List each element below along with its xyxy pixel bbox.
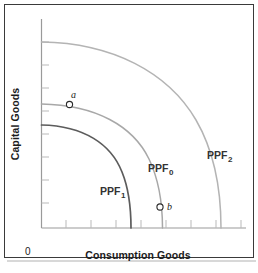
y-axis-ticks [42,42,50,203]
point-b-marker [157,204,163,210]
ppf2-label-subscript: 2 [228,155,232,164]
ppf1-label-base: PPF [100,185,120,197]
ppf2-label-base: PPF [207,149,227,161]
y-axis-title: Capital Goods [9,79,21,169]
point-b-label: b [167,201,172,212]
ppf0-label-base: PPF [148,162,168,174]
x-axis-title: Consumption Goods [63,249,213,261]
ppf0-label: PPF0 [148,163,173,174]
x-axis-ticks [66,220,241,228]
point-a-label: a [71,89,76,100]
ppf1-label: PPF1 [100,186,125,197]
point-a-marker [66,101,72,107]
origin-label: 0 [25,246,31,257]
ppf2-label: PPF2 [207,150,232,161]
ppf-figure: PPF0 PPF1 PPF2 a b Capital Goods Consump… [0,0,258,273]
ppf-chart-canvas [0,0,258,273]
ppf1-curve [42,125,132,228]
ppf1-label-subscript: 1 [121,191,125,200]
ppf0-label-subscript: 0 [169,168,173,177]
ppf0-curve [42,104,163,228]
